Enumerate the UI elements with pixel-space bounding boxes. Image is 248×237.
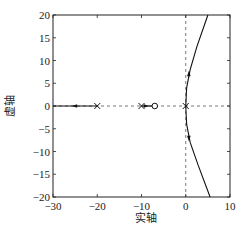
- x-tick-label: −20: [89, 200, 107, 212]
- locus-branch-upper-branch: [186, 15, 208, 106]
- y-tick-label: 5: [45, 77, 51, 89]
- x-tick-label: −10: [133, 200, 151, 212]
- y-axis-title: 虚轴: [3, 95, 17, 117]
- zero-marker-icon: [152, 103, 158, 109]
- arrow-icon: [72, 104, 77, 108]
- x-axis-title: 实轴: [135, 211, 157, 225]
- y-tick-label: −15: [33, 168, 51, 180]
- x-tick-label: 10: [225, 200, 237, 212]
- y-tick-label: 20: [39, 9, 51, 21]
- x-tick-label: 0: [183, 200, 189, 212]
- arrow-icon: [144, 104, 149, 108]
- locus-branch-lower-branch: [186, 106, 210, 197]
- y-tick-label: 15: [39, 32, 51, 44]
- root-locus-chart: −30−20−10010−20−15−10−505101520实轴虚轴: [0, 0, 248, 237]
- y-tick-label: 0: [45, 100, 51, 112]
- y-tick-label: −5: [38, 123, 50, 135]
- y-tick-label: −20: [33, 191, 51, 203]
- y-tick-label: 10: [39, 55, 51, 67]
- y-tick-label: −10: [33, 146, 51, 158]
